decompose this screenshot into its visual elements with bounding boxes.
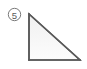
question-number-label: 5	[12, 10, 17, 21]
figure-svg: 5	[0, 0, 87, 69]
figure-canvas: 5	[0, 0, 87, 69]
